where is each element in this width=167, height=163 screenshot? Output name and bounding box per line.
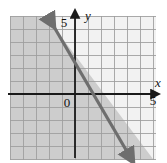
x-axis-label: x xyxy=(154,75,161,90)
origin-label: 0 xyxy=(64,95,71,110)
y-tick-label-5: 5 xyxy=(61,15,68,30)
x-tick-label-5: 5 xyxy=(150,93,157,108)
graph-canvas: 5 y 5 x 0 xyxy=(0,0,167,163)
coordinate-plane-figure: 5 y 5 x 0 xyxy=(0,0,167,163)
y-axis-label: y xyxy=(83,8,91,23)
